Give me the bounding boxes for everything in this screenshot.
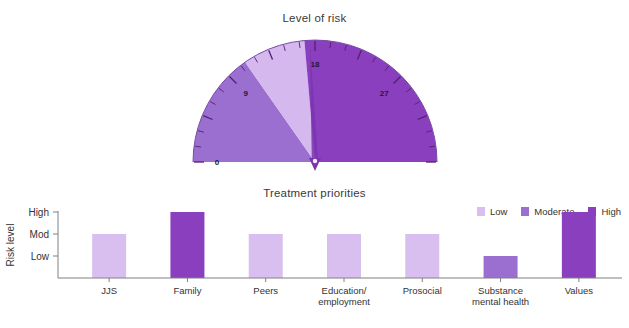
gauge-panel: Level of risk 091827 xyxy=(0,0,629,182)
category-label-3: employment xyxy=(318,296,370,307)
level-of-risk-gauge: 091827 xyxy=(186,34,444,174)
bar-jjs[interactable] xyxy=(92,234,126,278)
treatment-priorities-bar-chart: HighModLowRisk level JJSFamilyPeersEduca… xyxy=(0,182,629,328)
category-label-3: Education/ xyxy=(322,285,367,296)
y-axis: HighModLowRisk level xyxy=(5,207,58,279)
gauge-title: Level of risk xyxy=(0,12,629,24)
gauge-tick-label-0: 0 xyxy=(215,158,220,167)
gauge-tick-label-18: 18 xyxy=(311,60,320,69)
y-axis-label-low: Low xyxy=(31,251,50,262)
category-labels: JJSFamilyPeersEducation/employmentProsoc… xyxy=(101,285,593,307)
y-axis-label-mod: Mod xyxy=(30,229,49,240)
bar-substance-mental-health[interactable] xyxy=(484,256,518,278)
category-label-0: JJS xyxy=(101,285,117,296)
bars xyxy=(92,212,596,278)
bar-values[interactable] xyxy=(562,212,596,278)
category-label-1: Family xyxy=(173,285,201,296)
gauge-band-high xyxy=(304,40,437,162)
bar-family[interactable] xyxy=(170,212,204,278)
bar-prosocial[interactable] xyxy=(405,234,439,278)
y-axis-title: Risk level xyxy=(5,224,16,267)
category-label-6: Values xyxy=(565,285,594,296)
gauge-pivot-dot xyxy=(313,159,317,163)
category-label-5: Substance xyxy=(478,285,523,296)
category-label-4: Prosocial xyxy=(403,285,442,296)
y-axis-label-high: High xyxy=(28,207,49,218)
category-label-2: Peers xyxy=(253,285,278,296)
gauge-tick-label-27: 27 xyxy=(380,89,389,98)
bar-education-employment[interactable] xyxy=(327,234,361,278)
treatment-priorities-panel: Treatment priorities Low Moderate High H… xyxy=(0,182,629,328)
category-label-5: mental health xyxy=(472,296,529,307)
bar-peers[interactable] xyxy=(249,234,283,278)
gauge-tick-label-9: 9 xyxy=(243,89,248,98)
x-axis xyxy=(58,278,622,282)
